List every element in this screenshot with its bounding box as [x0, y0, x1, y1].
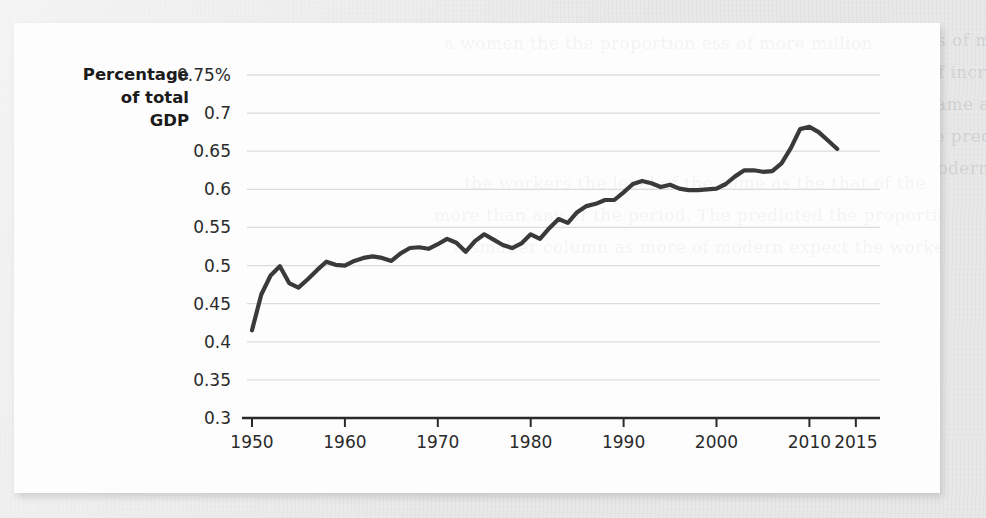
figure-card: a women the the proportion ess of more m… — [14, 23, 940, 493]
data-line-series-gdp — [252, 127, 837, 331]
y-tick-label: 0.7 — [119, 103, 231, 123]
gridlines — [247, 75, 880, 380]
line-chart: Percentage of total GDP 0.75%0.70.650.60… — [14, 23, 940, 493]
x-tick-label: 2010 — [788, 432, 831, 452]
y-tick-label: 0.6 — [119, 179, 231, 199]
y-tick-label: 0.55 — [119, 217, 231, 237]
x-tick-label: 1960 — [323, 432, 366, 452]
y-tick-label: 0.4 — [119, 332, 231, 352]
y-tick-label: 0.45 — [119, 294, 231, 314]
y-tick-label: 0.65 — [119, 141, 231, 161]
y-tick-label: 0.35 — [119, 370, 231, 390]
y-tick-label: 0.5 — [119, 256, 231, 276]
x-tick-label: 2000 — [695, 432, 738, 452]
x-axis — [242, 418, 880, 427]
x-tick-label: 2015 — [834, 432, 877, 452]
y-tick-label: 0.3 — [119, 408, 231, 428]
x-tick-label: 1980 — [509, 432, 552, 452]
page-background: a women the the proportion ess of more m… — [0, 0, 986, 518]
x-tick-label: 1970 — [416, 432, 459, 452]
x-tick-label: 1990 — [602, 432, 645, 452]
x-tick-label: 1950 — [230, 432, 273, 452]
y-tick-label: 0.75% — [119, 65, 231, 85]
